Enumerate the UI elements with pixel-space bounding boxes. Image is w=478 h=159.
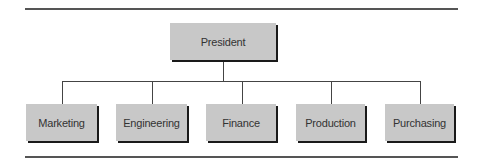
bottom-rule xyxy=(25,156,458,158)
top-rule xyxy=(25,8,458,10)
node-marketing: Marketing xyxy=(26,104,97,141)
node-production: Production xyxy=(296,104,365,141)
node-label: Purchasing xyxy=(393,117,446,129)
connector-production xyxy=(331,81,332,104)
connector-marketing xyxy=(62,81,63,104)
node-label: Production xyxy=(305,117,356,129)
node-finance: Finance xyxy=(206,104,276,141)
node-label: President xyxy=(201,36,246,48)
node-president: President xyxy=(170,23,276,60)
node-label: Engineering xyxy=(123,117,180,129)
node-label: Marketing xyxy=(38,117,85,129)
connector-engineering xyxy=(152,81,153,104)
node-purchasing: Purchasing xyxy=(385,104,454,141)
node-engineering: Engineering xyxy=(116,104,187,141)
node-label: Finance xyxy=(222,117,260,129)
connector-finance xyxy=(242,81,243,104)
connector-purchasing xyxy=(420,81,421,104)
connector-president-down xyxy=(223,62,224,81)
